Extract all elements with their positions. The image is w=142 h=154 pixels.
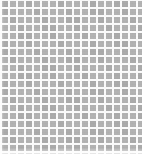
grid-tile xyxy=(106,81,112,87)
grid-tile xyxy=(10,89,16,95)
grid-tile xyxy=(122,113,128,119)
grid-tile xyxy=(90,57,96,63)
grid-tile xyxy=(122,57,128,63)
grid-tile xyxy=(90,49,96,55)
grid-tile xyxy=(50,9,56,15)
grid-tile xyxy=(130,113,136,119)
grid-tile xyxy=(114,153,120,154)
grid-tile xyxy=(122,25,128,31)
grid-tile xyxy=(10,145,16,151)
grid-tile xyxy=(34,153,40,154)
grid-tile xyxy=(2,17,8,23)
grid-tile xyxy=(26,41,32,47)
grid-tile xyxy=(114,65,120,71)
grid-tile xyxy=(130,145,136,151)
grid-tile xyxy=(26,153,32,154)
grid-tile xyxy=(10,81,16,87)
grid-tile xyxy=(74,153,80,154)
grid-tile xyxy=(98,73,104,79)
grid-tile xyxy=(82,1,88,7)
grid-tile xyxy=(138,105,142,111)
grid-tile xyxy=(34,129,40,135)
grid-tile xyxy=(50,1,56,7)
grid-tile xyxy=(66,73,72,79)
grid-tile xyxy=(18,57,24,63)
grid-tile xyxy=(98,113,104,119)
grid-tile xyxy=(58,73,64,79)
grid-tile xyxy=(50,17,56,23)
grid-tile xyxy=(18,17,24,23)
grid-tile xyxy=(74,9,80,15)
grid-tile xyxy=(90,97,96,103)
grid-tile xyxy=(10,121,16,127)
grid-tile xyxy=(34,89,40,95)
grid-tile xyxy=(106,105,112,111)
grid-tile xyxy=(130,105,136,111)
grid-tile xyxy=(74,65,80,71)
grid-tile xyxy=(98,9,104,15)
grid-tile xyxy=(66,81,72,87)
grid-tile xyxy=(58,25,64,31)
grid-tile xyxy=(114,137,120,143)
grid-tile xyxy=(122,41,128,47)
grid-tile xyxy=(106,17,112,23)
grid-tile xyxy=(122,121,128,127)
grid-tile xyxy=(90,145,96,151)
grid-tile xyxy=(106,65,112,71)
grid-tile xyxy=(138,33,142,39)
grid-tile xyxy=(74,129,80,135)
grid-tile xyxy=(90,121,96,127)
grid-tile xyxy=(58,145,64,151)
grid-tile xyxy=(58,81,64,87)
grid-tile xyxy=(90,65,96,71)
grid-tile xyxy=(26,145,32,151)
grid-tile xyxy=(50,65,56,71)
grid-tile xyxy=(98,57,104,63)
grid-tile xyxy=(10,105,16,111)
grid-tile xyxy=(42,105,48,111)
grid-tile xyxy=(2,41,8,47)
grid-tile xyxy=(58,17,64,23)
grid-tile xyxy=(82,97,88,103)
grid-tile xyxy=(130,121,136,127)
grid-tile xyxy=(82,81,88,87)
grid-tile xyxy=(50,153,56,154)
grid-tile xyxy=(18,33,24,39)
grid-tile xyxy=(42,41,48,47)
grid-tile xyxy=(50,49,56,55)
grid-tile xyxy=(74,89,80,95)
grid-tile xyxy=(98,97,104,103)
grid-tile xyxy=(122,17,128,23)
grid-tile xyxy=(130,41,136,47)
grid-tile xyxy=(130,49,136,55)
grid-tile xyxy=(106,49,112,55)
grid-tile xyxy=(122,9,128,15)
grid-tile xyxy=(10,49,16,55)
grid-tile xyxy=(34,145,40,151)
grid-tile xyxy=(18,137,24,143)
grid-tile xyxy=(130,33,136,39)
grid-tile xyxy=(26,9,32,15)
grid-tile xyxy=(130,89,136,95)
grid-tile xyxy=(42,17,48,23)
grid-tile xyxy=(74,97,80,103)
grid-tile xyxy=(42,81,48,87)
grid-tile xyxy=(138,137,142,143)
grid-tile xyxy=(138,1,142,7)
grid-tile xyxy=(98,105,104,111)
grid-tile xyxy=(138,113,142,119)
grid-tile xyxy=(82,25,88,31)
grid-tile xyxy=(18,121,24,127)
grid-tile xyxy=(74,81,80,87)
grid-tile xyxy=(10,1,16,7)
grid-tile xyxy=(2,97,8,103)
grid-tile xyxy=(106,57,112,63)
grid-tile xyxy=(122,33,128,39)
grid-tile xyxy=(10,97,16,103)
grid-tile xyxy=(66,33,72,39)
grid-tile xyxy=(10,153,16,154)
grid-tile xyxy=(82,65,88,71)
grid-tile xyxy=(66,113,72,119)
grid-tile xyxy=(18,65,24,71)
grid-tile xyxy=(2,49,8,55)
